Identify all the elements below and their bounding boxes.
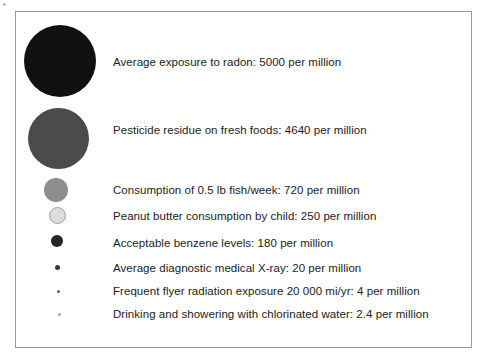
- risk-bubble-figure: Average exposure to radon: 5000 per mill…: [0, 0, 493, 359]
- bubble-row-list: Average exposure to radon: 5000 per mill…: [0, 0, 493, 359]
- risk-label: Drinking and showering with chlorinated …: [113, 308, 429, 321]
- risk-bubble: [44, 178, 68, 202]
- risk-bubble: [58, 313, 61, 316]
- risk-label: Pesticide residue on fresh foods: 4640 p…: [113, 124, 367, 137]
- risk-label: Consumption of 0.5 lb fish/week: 720 per…: [113, 184, 360, 197]
- risk-bubble: [28, 108, 89, 169]
- risk-bubble: [57, 290, 60, 293]
- risk-label: Peanut butter consumption by child: 250 …: [113, 210, 376, 223]
- risk-bubble: [55, 265, 60, 270]
- risk-label: Frequent flyer radiation exposure 20 000…: [113, 285, 420, 298]
- risk-label: Average diagnostic medical X-ray: 20 per…: [113, 262, 361, 275]
- risk-bubble: [49, 207, 66, 224]
- risk-bubble: [24, 25, 96, 97]
- risk-bubble: [51, 235, 63, 247]
- risk-label: Average exposure to radon: 5000 per mill…: [113, 56, 341, 69]
- risk-label: Acceptable benzene levels: 180 per milli…: [113, 237, 333, 250]
